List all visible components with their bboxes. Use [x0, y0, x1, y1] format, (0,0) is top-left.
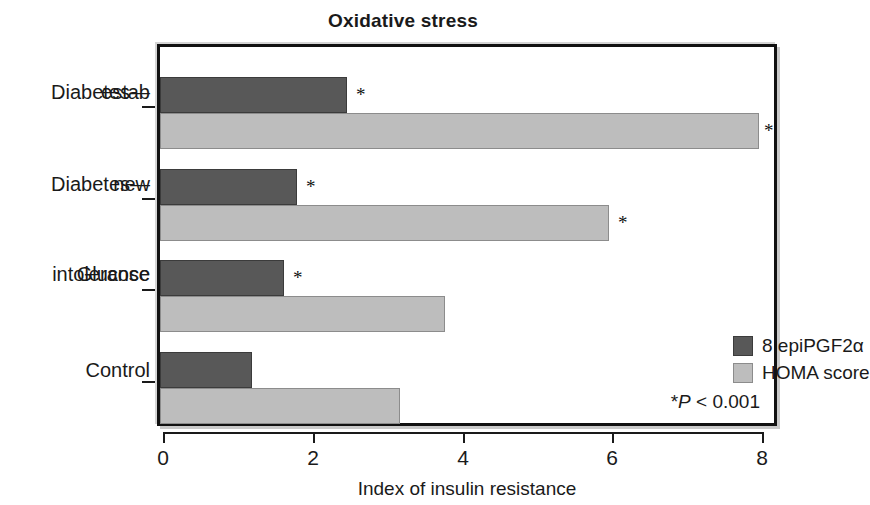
legend-item-epipgf2a[interactable]: 8 epiPGF2α — [733, 335, 870, 357]
x-axis-ticklabel-0: 0 — [143, 446, 183, 470]
bar-diabetes-estab-epipgf2a[interactable] — [160, 77, 347, 113]
y-axis-tick-glucose-intolerance — [142, 289, 157, 291]
y-axis-label-diabetes-new: Diabetes— new — [0, 172, 150, 196]
pvalue-p-symbol: P — [678, 391, 691, 412]
y-axis-label-line-2: intolerance — [0, 262, 150, 286]
pvalue-annotation: *P < 0.001 — [671, 391, 760, 413]
x-axis-title: Index of insulin resistance — [157, 478, 777, 500]
x-axis-tick-4 — [463, 432, 465, 443]
legend-item-homa-score[interactable]: HOMA score — [733, 362, 870, 384]
y-axis-label-diabetes-estab: Diabetes— estab — [0, 80, 150, 104]
x-axis-ticklabel-2: 2 — [293, 446, 333, 470]
legend-swatch-icon-homa-score — [733, 363, 753, 383]
bar-diabetes-new-epipgf2a[interactable] — [160, 169, 297, 205]
x-axis-tick-8 — [762, 432, 764, 443]
y-axis-label-line-2: new — [0, 172, 150, 196]
bar-control-epipgf2a[interactable] — [160, 352, 252, 388]
plot-area: * * * * * 8 epiPGF2α HOMA score *P < 0. — [160, 47, 774, 423]
bar-glucose-intolerance-epipgf2a[interactable] — [160, 260, 284, 296]
y-axis-label-glucose-intolerance: Glucose intolerance — [0, 262, 150, 286]
plot-frame: * * * * * 8 epiPGF2α HOMA score *P < 0. — [157, 44, 777, 426]
y-axis-label-line-2: estab — [0, 80, 150, 104]
legend-label-homa-score: HOMA score — [762, 362, 870, 384]
bar-diabetes-new-homa[interactable] — [160, 205, 609, 241]
pvalue-star: * — [671, 391, 678, 412]
bar-diabetes-estab-homa[interactable] — [160, 113, 759, 149]
y-axis-tick-diabetes-estab — [142, 106, 157, 108]
significance-star-glucose-intolerance-epipgf2a: * — [293, 268, 303, 287]
significance-star-diabetes-new-homa: * — [618, 213, 628, 232]
x-axis-tick-2 — [313, 432, 315, 443]
legend-swatch-icon-epipgf2a — [733, 336, 753, 356]
x-axis-ticklabel-8: 8 — [742, 446, 782, 470]
significance-star-diabetes-estab-homa: * — [764, 121, 774, 140]
legend-label-epipgf2a: 8 epiPGF2α — [762, 335, 864, 357]
chart-title: Oxidative stress — [0, 10, 806, 32]
y-axis-label-line-1: Control — [0, 358, 150, 382]
x-axis-tick-6 — [612, 432, 614, 443]
x-axis-tick-0 — [163, 432, 165, 443]
legend: 8 epiPGF2α HOMA score — [733, 335, 870, 389]
pvalue-threshold: < 0.001 — [691, 391, 760, 412]
y-axis-tick-diabetes-new — [142, 198, 157, 200]
significance-star-diabetes-new-epipgf2a: * — [306, 177, 316, 196]
bar-glucose-intolerance-homa[interactable] — [160, 296, 445, 332]
x-axis-ticklabel-6: 6 — [592, 446, 632, 470]
bar-control-homa[interactable] — [160, 388, 400, 424]
y-axis-tick-control — [142, 381, 157, 383]
significance-star-diabetes-estab-epipgf2a: * — [356, 85, 366, 104]
y-axis-label-control: Control — [0, 358, 150, 382]
x-axis-ticklabel-4: 4 — [443, 446, 483, 470]
